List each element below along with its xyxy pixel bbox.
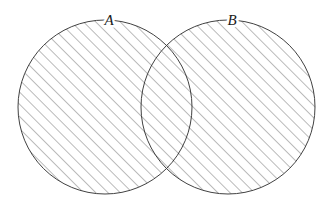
set-label-b: B xyxy=(227,12,236,28)
set-label-a: A xyxy=(103,12,114,28)
venn-diagram-canvas: A A B B xyxy=(0,0,335,220)
venn-diagram-figure: A A B B xyxy=(0,0,335,220)
